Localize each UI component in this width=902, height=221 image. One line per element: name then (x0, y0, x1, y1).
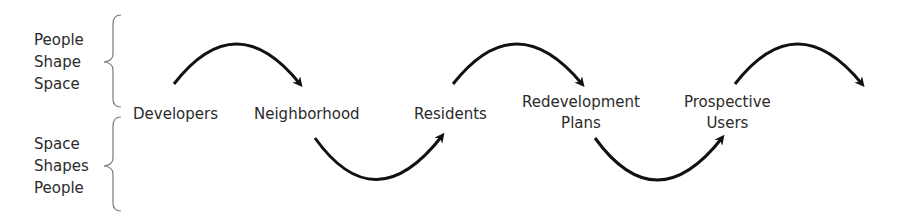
arrow-redevelopment-plans-to-prospective-users (595, 138, 722, 180)
arrow-developers-to-neighborhood (174, 44, 300, 84)
arrow-neighborhood-to-residents (315, 136, 442, 180)
diagram-graphics (0, 0, 902, 221)
arrow-prospective-users-onward (735, 44, 862, 84)
arrow-residents-to-redevelopment-plans (453, 44, 582, 84)
brace-top (104, 15, 121, 107)
brace-bottom (104, 117, 121, 211)
cycle-diagram: People Shape Space Space Shapes People D… (0, 0, 902, 221)
